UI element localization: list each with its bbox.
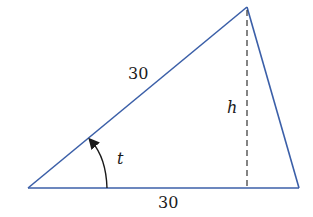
- base-label: 30: [158, 195, 178, 211]
- hypotenuse-label: 30: [128, 66, 148, 82]
- angle-arc: [92, 142, 107, 188]
- right-side: [247, 7, 299, 188]
- triangle-diagram: 30 h t 30: [0, 0, 313, 217]
- angle-label: t: [117, 151, 123, 167]
- triangle-figure: [0, 0, 313, 217]
- height-label: h: [227, 100, 237, 116]
- left-side: [28, 7, 247, 188]
